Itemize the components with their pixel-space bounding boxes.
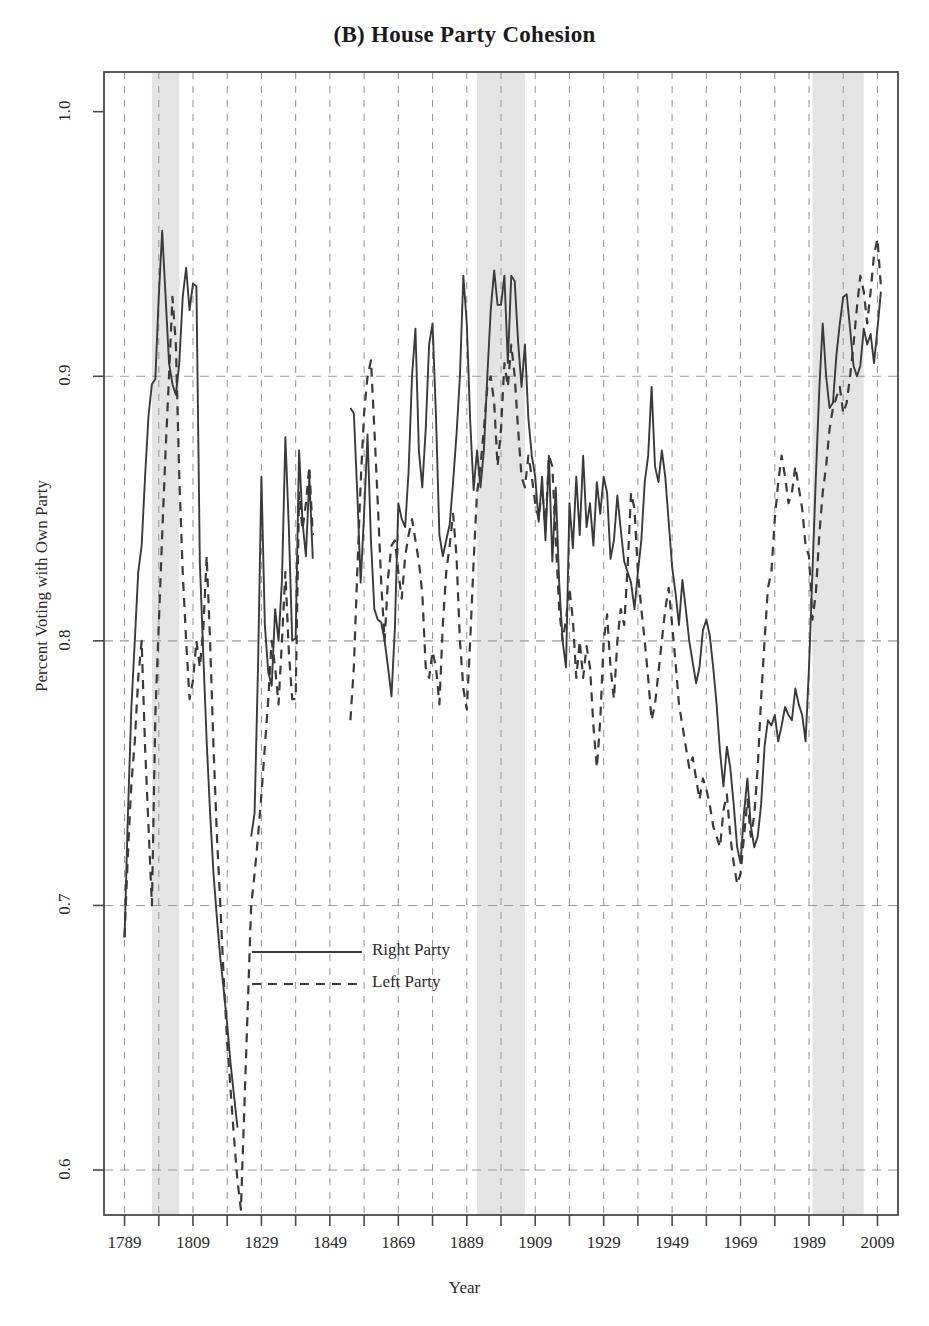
chart-figure: (B) House Party Cohesion Percent Voting … (0, 0, 929, 1326)
x-tick-label: 2009 (842, 1233, 912, 1253)
y-tick-label: 0.9 (55, 352, 75, 398)
y-tick-label: 1.0 (55, 88, 75, 134)
y-tick-label: 0.6 (55, 1146, 75, 1192)
x-tick-label: 1989 (774, 1233, 844, 1253)
legend-label-right-party: Right Party (372, 940, 450, 960)
x-tick-label: 1809 (158, 1233, 228, 1253)
legend-label-left-party: Left Party (372, 972, 440, 992)
series-line-right-party (350, 270, 880, 863)
x-tick-label: 1889 (432, 1233, 502, 1253)
shaded-band (812, 72, 863, 1215)
x-tick-label: 1909 (500, 1233, 570, 1253)
x-tick-label: 1949 (637, 1233, 707, 1253)
x-tick-label: 1869 (363, 1233, 433, 1253)
x-tick-label: 1789 (90, 1233, 160, 1253)
x-tick-label: 1829 (226, 1233, 296, 1253)
y-tick-label: 0.8 (55, 617, 75, 663)
series-line-right-party (125, 231, 238, 1128)
legend-sample-lines (252, 952, 362, 984)
x-tick-label: 1929 (569, 1233, 639, 1253)
shaded-band (152, 72, 179, 1215)
plot-canvas (0, 0, 929, 1326)
x-tick-label: 1969 (706, 1233, 776, 1253)
x-tick-label: 1849 (295, 1233, 365, 1253)
y-tick-label: 0.7 (55, 881, 75, 927)
